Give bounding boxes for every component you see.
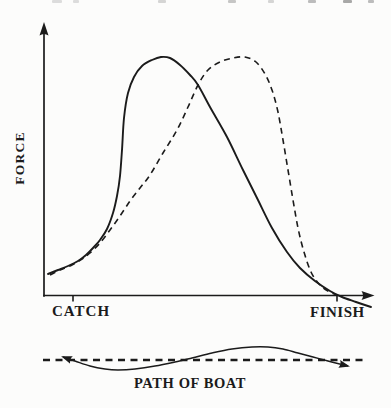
boat-path-group [43,347,367,370]
y-axis-arrow-icon [40,22,49,36]
solid-force-curve [48,57,371,307]
force-curve-diagram: FORCE CATCH FINISH PATH OF BOAT [0,0,391,408]
force-axes [40,22,375,302]
x-axis-arrow-icon [362,291,375,300]
dashed-force-curve [50,57,337,295]
x-axis-finish-label: FINISH [310,305,365,320]
diagram-canvas [0,0,391,408]
y-axis-label: FORCE [13,131,27,184]
boat-path-label: PATH OF BOAT [134,376,246,391]
x-axis-catch-label: CATCH [52,304,110,319]
boat-path-curve [63,347,348,370]
